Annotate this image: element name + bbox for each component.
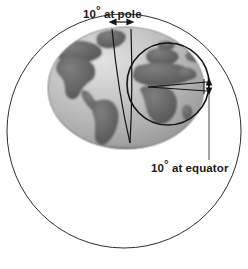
equator-span-arrow (204, 79, 211, 94)
equator-arrow-head-top (207, 79, 212, 85)
pole-value: 10 (83, 8, 96, 20)
pole-arrow-head-left (110, 19, 116, 24)
equator-value: 10 (151, 162, 164, 174)
pole-text: at pole (101, 8, 142, 20)
diagram-canvas (0, 0, 248, 269)
pole-arrow-head-right (127, 19, 133, 24)
equator-text: at equator (169, 162, 229, 174)
globe-longitude-diagram: 10° at pole 10° at equator (0, 0, 248, 269)
label-ten-degrees-at-pole: 10° at pole (83, 4, 142, 20)
label-ten-degrees-at-equator: 10° at equator (151, 158, 229, 174)
pole-span-arrow (110, 19, 133, 24)
